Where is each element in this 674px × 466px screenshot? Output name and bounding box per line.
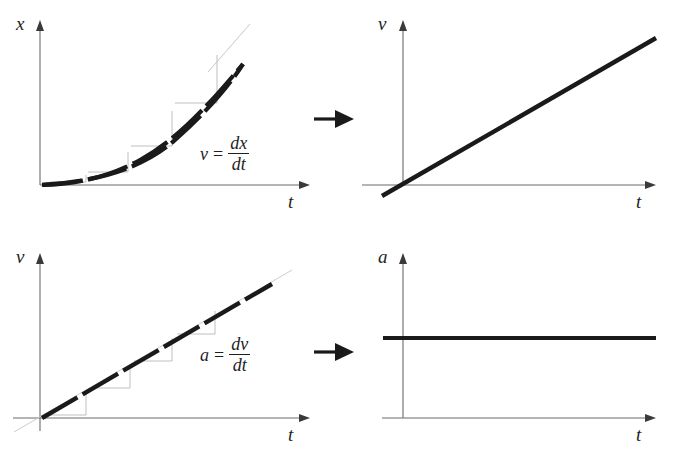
annotation-equals: = <box>213 145 223 163</box>
annotation-numerator: dx <box>228 134 249 153</box>
annotation-denominator: dt <box>230 154 248 173</box>
y-axis-arrowhead <box>36 20 44 31</box>
annotation-a-equals-dv-dt: a = dv dt <box>200 335 250 374</box>
axes <box>362 20 656 189</box>
panel-acceleration-time: a t <box>340 233 674 466</box>
axes <box>36 20 310 189</box>
slope-triangle-4 <box>175 55 217 103</box>
annotation-lhs: a <box>200 346 209 364</box>
y-axis-arrowhead <box>399 253 407 264</box>
x-axis-arrowhead <box>299 414 310 422</box>
x-axis-arrowhead <box>299 181 310 189</box>
annotation-v-equals-dx-dt: v = dx dt <box>200 134 249 173</box>
kinematics-figure: x t v = dx dt <box>0 0 674 466</box>
y-axis-label: v <box>378 14 386 33</box>
velocity-time-result-plot <box>340 0 674 233</box>
acceleration-time-plot <box>340 233 674 466</box>
panel-velocity-time-result: v t <box>340 0 674 233</box>
y-axis-arrowhead <box>36 253 44 264</box>
x-axis-label: t <box>288 192 293 211</box>
x-axis-label: t <box>636 425 641 444</box>
axes <box>13 253 310 431</box>
annotation-denominator: dt <box>231 355 249 374</box>
annotation-numerator: dv <box>229 335 250 354</box>
y-axis-label: x <box>16 14 24 33</box>
x-axis-arrowhead <box>645 181 656 189</box>
annotation-fraction: dx dt <box>228 134 249 173</box>
x-axis-label: t <box>288 425 293 444</box>
annotation-fraction: dv dt <box>229 335 250 374</box>
annotation-lhs: v <box>200 145 208 163</box>
slope-triangle-3 <box>134 338 172 361</box>
panel-velocity-time: v t a = dv dt <box>0 233 340 466</box>
y-axis-label: v <box>16 247 24 266</box>
y-axis-label: a <box>378 247 388 266</box>
velocity-line <box>382 38 656 196</box>
panel-position-time: x t v = dx dt <box>0 0 340 233</box>
y-axis-arrowhead <box>399 20 407 31</box>
x-axis-label: t <box>636 192 641 211</box>
x-axis-arrowhead <box>645 414 656 422</box>
annotation-equals: = <box>214 346 224 364</box>
